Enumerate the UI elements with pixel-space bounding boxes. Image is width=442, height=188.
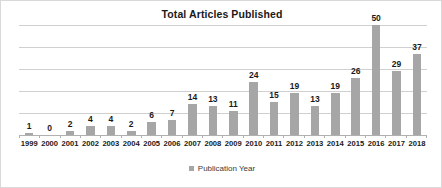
x-axis-tick-label: 2018 xyxy=(407,139,427,148)
bar-value-label: 13 xyxy=(203,95,223,104)
x-axis-tick-label: 2011 xyxy=(264,139,284,148)
bar-series: 10244267141311241519131926502937 xyxy=(19,25,427,135)
bar-slot: 26 xyxy=(346,25,366,135)
axis-tick xyxy=(80,135,81,138)
bar-value-label: 14 xyxy=(182,93,202,102)
bar[interactable] xyxy=(372,25,381,135)
bar-slot: 2 xyxy=(60,25,80,135)
bar[interactable] xyxy=(209,106,218,135)
bar[interactable] xyxy=(229,111,238,135)
bar[interactable] xyxy=(107,126,116,135)
x-axis-tick-label: 2007 xyxy=(182,139,202,148)
bar[interactable] xyxy=(86,126,95,135)
bar-value-label: 24 xyxy=(243,71,263,80)
bar-value-label: 4 xyxy=(101,115,121,124)
bar[interactable] xyxy=(351,78,360,135)
axis-tick xyxy=(263,135,264,138)
bar-slot: 29 xyxy=(386,25,406,135)
x-axis-tick-label: 2014 xyxy=(325,139,345,148)
legend-swatch-icon xyxy=(189,166,194,171)
x-axis-tick-label: 2001 xyxy=(60,139,80,148)
bar-slot: 4 xyxy=(101,25,121,135)
axis-tick xyxy=(385,135,386,138)
axis-tick xyxy=(161,135,162,138)
x-axis-tick-label: 2013 xyxy=(305,139,325,148)
bar-value-label: 4 xyxy=(80,115,100,124)
bar-value-label: 13 xyxy=(305,95,325,104)
bar-slot: 13 xyxy=(203,25,223,135)
bar-value-label: 19 xyxy=(284,82,304,91)
chart-container: Total Articles Published 102442671413112… xyxy=(0,0,442,188)
axis-tick xyxy=(60,135,61,138)
axis-tick xyxy=(345,135,346,138)
bar-slot: 4 xyxy=(80,25,100,135)
bar-slot: 0 xyxy=(39,25,59,135)
x-axis-tick-label: 2015 xyxy=(346,139,366,148)
legend-label: Publication Year xyxy=(198,164,255,173)
bar-slot: 50 xyxy=(366,25,386,135)
chart-legend: Publication Year xyxy=(1,164,442,173)
bar[interactable] xyxy=(168,120,177,135)
bar-value-label: 7 xyxy=(162,109,182,118)
axis-tick xyxy=(19,135,20,138)
bar-slot: 13 xyxy=(305,25,325,135)
bar[interactable] xyxy=(392,71,401,135)
x-axis-tick-label: 2002 xyxy=(80,139,100,148)
bar-value-label: 2 xyxy=(121,120,141,129)
bar-slot: 2 xyxy=(121,25,141,135)
bar[interactable] xyxy=(413,54,422,135)
axis-tick xyxy=(426,135,427,138)
axis-tick-marks xyxy=(19,135,427,138)
axis-tick xyxy=(141,135,142,138)
bar-value-label: 6 xyxy=(141,111,161,120)
bar-value-label: 50 xyxy=(366,14,386,23)
bar-slot: 14 xyxy=(182,25,202,135)
bar-value-label: 1 xyxy=(19,122,39,131)
axis-tick xyxy=(406,135,407,138)
x-axis-tick-label: 2008 xyxy=(203,139,223,148)
bar-slot: 24 xyxy=(243,25,263,135)
bar-slot: 19 xyxy=(325,25,345,135)
axis-tick xyxy=(365,135,366,138)
bar-slot: 1 xyxy=(19,25,39,135)
bar[interactable] xyxy=(188,104,197,135)
bar[interactable] xyxy=(147,122,156,135)
axis-tick xyxy=(202,135,203,138)
plot-area: 10244267141311241519131926502937 xyxy=(19,25,427,135)
bar-value-label: 0 xyxy=(39,124,59,133)
bar-value-label: 37 xyxy=(407,43,427,52)
x-axis-tick-label: 2005 xyxy=(141,139,161,148)
bar[interactable] xyxy=(249,82,258,135)
axis-tick xyxy=(324,135,325,138)
x-axis-labels: 1999200020012002200320042005200620072008… xyxy=(19,139,427,148)
axis-tick xyxy=(304,135,305,138)
x-axis-tick-label: 2009 xyxy=(223,139,243,148)
bar-value-label: 19 xyxy=(325,82,345,91)
bar-slot: 37 xyxy=(407,25,427,135)
axis-tick xyxy=(283,135,284,138)
bar[interactable] xyxy=(290,93,299,135)
bar-slot: 6 xyxy=(141,25,161,135)
x-axis-tick-label: 2016 xyxy=(366,139,386,148)
bar-value-label: 26 xyxy=(346,67,366,76)
x-axis-tick-label: 2010 xyxy=(243,139,263,148)
bar-value-label: 2 xyxy=(60,120,80,129)
bar[interactable] xyxy=(331,93,340,135)
x-axis-tick-label: 1999 xyxy=(19,139,39,148)
axis-tick xyxy=(222,135,223,138)
bar[interactable] xyxy=(311,106,320,135)
axis-tick xyxy=(39,135,40,138)
x-axis-tick-label: 2004 xyxy=(121,139,141,148)
bar[interactable] xyxy=(270,102,279,135)
bar-slot: 19 xyxy=(284,25,304,135)
bar-slot: 11 xyxy=(223,25,243,135)
bar-value-label: 29 xyxy=(386,60,406,69)
x-axis-tick-label: 2017 xyxy=(386,139,406,148)
axis-tick xyxy=(100,135,101,138)
axis-tick xyxy=(182,135,183,138)
bar-value-label: 15 xyxy=(264,91,284,100)
axis-tick xyxy=(243,135,244,138)
axis-tick xyxy=(121,135,122,138)
x-axis-tick-label: 2000 xyxy=(39,139,59,148)
bar-value-label: 11 xyxy=(223,100,243,109)
